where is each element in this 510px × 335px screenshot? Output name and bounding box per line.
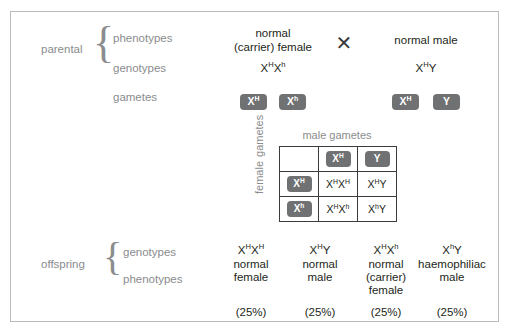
punnett-row-0: XH XHXH XHY	[280, 172, 397, 197]
father-gametes-row: XHY	[363, 91, 489, 110]
offspring-percent: (25%)	[214, 306, 288, 319]
offspring-genotype: XHXh	[349, 244, 423, 257]
father-phenotype-line1: normal male	[394, 34, 457, 46]
offspring-phenotype-line: female	[214, 271, 288, 284]
offspring-phenotype-line: normal	[283, 258, 357, 271]
parental-group-label: parental	[41, 43, 83, 55]
gamete-chip-sup: h	[300, 202, 304, 209]
punnett-cell-1-1: XhY	[358, 197, 397, 222]
cell-base1: X	[368, 203, 375, 215]
punnett-cell-0-0: XHXH	[319, 172, 358, 197]
punnett-male-gamete-header-0: XH	[319, 147, 358, 172]
cell-base1: X	[326, 178, 333, 190]
offspring-phenotype-line: (carrier)	[349, 271, 423, 284]
mother-genotype-sup2: h	[281, 60, 285, 69]
cell-base2: X	[339, 203, 346, 215]
female-gametes-heading: femalegametes	[253, 118, 267, 196]
gamete-chip-sup: H	[407, 95, 412, 102]
geno-base1: X	[238, 244, 246, 256]
cell-sup2: h	[346, 203, 350, 210]
gamete-chip-mother-1: Xh	[279, 94, 306, 110]
punnett-cell-0-1: XHY	[358, 172, 397, 197]
offspring-genotype: XHY	[283, 244, 357, 257]
parental-row-label-phenotypes: phenotypes	[113, 32, 172, 44]
mother-phenotype: normal (carrier) female	[217, 26, 329, 54]
geno-base2: Y	[454, 244, 462, 256]
offspring-column-0: XHXH normal female (25%)	[214, 244, 288, 284]
gamete-chip-father-0: XH	[392, 94, 419, 110]
offspring-phenotype-line: normal	[349, 258, 423, 271]
offspring-phenotype-line: male	[283, 271, 357, 284]
offspring-percent: (25%)	[283, 306, 357, 319]
mother-genotype: XHXh	[217, 62, 329, 74]
cell-sup2: H	[345, 178, 350, 185]
mother-gametes-row: XHXh	[217, 91, 329, 110]
gamete-chip-base: Y	[443, 95, 450, 107]
mother-phenotype-line2: (carrier) female	[234, 41, 312, 53]
punnett-header-row: XH Y	[280, 147, 397, 172]
offspring-phenotype-line: haemophiliac	[415, 258, 489, 271]
geno-base2: Y	[323, 244, 331, 256]
geno-sup2: H	[259, 242, 264, 251]
gamete-chip-base: X	[332, 153, 339, 164]
parental-row-label-genotypes: genotypes	[113, 62, 166, 74]
female-gametes-heading-line2: gametes	[253, 115, 265, 157]
gamete-chip-female-1: Xh	[287, 201, 312, 217]
offspring-row-label-genotypes: genotypes	[123, 246, 176, 258]
gamete-chip-sup: h	[294, 95, 298, 102]
punnett-cell-1-0: XHXh	[319, 197, 358, 222]
female-gametes-heading-line1: female	[253, 161, 265, 194]
gamete-chip-sup: H	[255, 95, 260, 102]
gamete-chip-base: X	[287, 95, 294, 107]
geno-sup2: h	[394, 242, 398, 251]
offspring-column-1: XHY normal male (25%)	[283, 244, 357, 284]
cell-base2: Y	[379, 203, 386, 215]
punnett-male-gamete-header-1: Y	[358, 147, 397, 172]
genetics-figure-frame: parental { phenotypes genotypes gametes …	[10, 11, 499, 322]
offspring-genotype: XhY	[415, 244, 489, 257]
offspring-phenotype-line: male	[415, 271, 489, 284]
geno-base2: X	[251, 244, 259, 256]
gamete-chip-base: X	[247, 95, 254, 107]
father-genotype: XHY	[363, 62, 489, 74]
father-phenotype: normal male	[363, 33, 489, 47]
punnett-grid: XH Y XH XHXH XHY Xh	[279, 146, 397, 222]
mother-phenotype-line1: normal	[255, 27, 290, 39]
geno-base1: X	[373, 244, 381, 256]
offspring-section: offspring { genotypes phenotypes XHXH no…	[11, 230, 500, 323]
gamete-chip-father-1: Y	[433, 94, 460, 110]
gamete-chip-mother-0: XH	[240, 94, 267, 110]
offspring-column-3: XhY haemophiliac male (25%)	[415, 244, 489, 284]
offspring-phenotype-line: female	[349, 284, 423, 297]
cell-base2: Y	[380, 178, 387, 190]
geno-base1: X	[442, 244, 450, 256]
parental-brace: {	[93, 21, 114, 65]
parental-row-label-gametes: gametes	[113, 91, 157, 103]
offspring-column-2: XHXh normal (carrier) female (25%)	[349, 244, 423, 297]
offspring-row-label-phenotypes: phenotypes	[123, 273, 182, 285]
gamete-chip-male-1: Y	[365, 151, 390, 167]
offspring-percent: (25%)	[415, 306, 489, 319]
parental-section: parental { phenotypes genotypes gametes …	[11, 12, 500, 120]
gamete-chip-base: X	[293, 178, 300, 189]
offspring-genotype: XHXH	[214, 244, 288, 257]
punnett-female-gamete-header-0: XH	[280, 172, 319, 197]
cross-symbol: ✕	[331, 33, 357, 53]
offspring-group-label: offspring	[41, 258, 85, 270]
gamete-chip-base: Y	[374, 153, 381, 164]
gamete-chip-base: X	[399, 95, 406, 107]
offspring-brace: {	[103, 237, 122, 277]
mother-genotype-base1: X	[260, 62, 268, 74]
cell-base1: X	[327, 203, 334, 215]
punnett-corner-cell	[280, 147, 319, 172]
gamete-chip-sup: H	[339, 152, 344, 159]
offspring-phenotype-line: normal	[214, 258, 288, 271]
gamete-chip-female-0: XH	[287, 176, 312, 192]
gamete-chip-sup: H	[300, 177, 305, 184]
male-gametes-heading: male gametes	[279, 129, 395, 141]
punnett-row-1: Xh XHXh XhY	[280, 197, 397, 222]
punnett-square-section: male gametes femalegametes XH Y XH XHXH	[11, 120, 500, 230]
cell-base1: X	[367, 178, 374, 190]
father-genotype-base2: Y	[429, 62, 437, 74]
punnett-female-gamete-header-1: Xh	[280, 197, 319, 222]
